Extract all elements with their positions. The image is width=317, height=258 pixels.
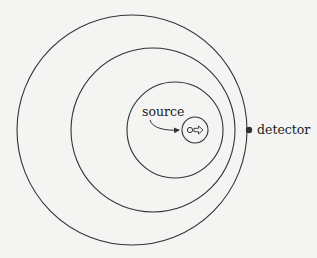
detector-icon	[246, 127, 252, 133]
source-pointer-arrow	[150, 120, 179, 130]
source-icon	[187, 127, 192, 132]
wavefront-1	[17, 15, 247, 245]
wavefront-4	[182, 117, 208, 143]
source-label: source	[142, 104, 184, 119]
detector-label: detector	[257, 122, 310, 137]
doppler-diagram: source detector	[0, 0, 317, 258]
wavefront-2	[71, 48, 235, 212]
velocity-arrow-icon	[194, 126, 203, 134]
